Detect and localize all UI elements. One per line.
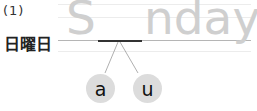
choice-a-label: a [95,78,107,100]
connector-lines [0,0,257,111]
choice-u-label: u [141,78,153,100]
choice-a-button[interactable]: a [86,74,115,103]
choice-u-button[interactable]: u [133,74,162,103]
